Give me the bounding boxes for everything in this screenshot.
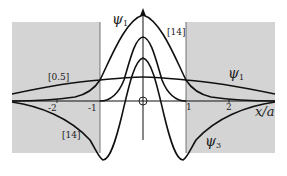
- label-psi1-top: ψ1: [112, 12, 128, 28]
- tick-label-m1: -1: [88, 104, 97, 113]
- right-barrier-region: [186, 22, 275, 153]
- tick-label-1: 1: [186, 103, 192, 112]
- tick-label-m2: -2: [48, 104, 57, 113]
- wavefunction-plot: [0, 0, 287, 176]
- x-axis-label: x/a: [255, 105, 274, 118]
- label-psi3: ψ3: [205, 134, 221, 150]
- label-bracket-left: [0.5]: [48, 73, 69, 82]
- label-psi1-right: ψ1: [228, 66, 244, 82]
- label-bracket-top-right: [14]: [167, 28, 185, 37]
- tick-label-2: 2: [226, 103, 232, 112]
- label-bracket-bottom-left: [14]: [62, 131, 80, 140]
- left-barrier-region: [12, 22, 100, 153]
